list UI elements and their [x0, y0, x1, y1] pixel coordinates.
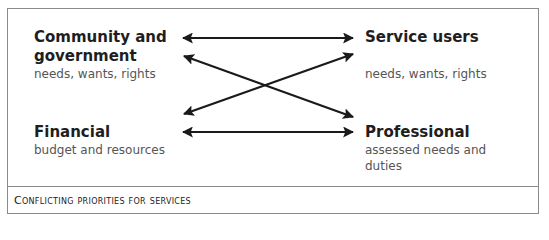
node-financial: Financial budget and resources: [34, 123, 165, 158]
node-title: Financial: [34, 123, 165, 142]
node-subtitle: needs, wants, rights: [365, 66, 487, 82]
arrow-financial-service-users: [184, 54, 353, 114]
node-professional: Professional assessed needs and duties: [365, 123, 486, 174]
node-service-users: Service users needs, wants, rights: [365, 28, 487, 82]
node-community-government: Community and government needs, wants, r…: [34, 28, 167, 82]
node-subtitle: assessed needs and: [365, 142, 486, 158]
figure-caption: Conflicting priorities for services: [14, 194, 191, 207]
node-subtitle: duties: [365, 158, 486, 174]
node-title: government: [34, 47, 167, 66]
node-subtitle: budget and resources: [34, 142, 165, 158]
node-title: Community and: [34, 28, 167, 47]
node-title: Service users: [365, 28, 487, 47]
node-title: Professional: [365, 123, 486, 142]
arrow-community-professional: [184, 56, 353, 117]
node-subtitle: needs, wants, rights: [34, 66, 167, 82]
